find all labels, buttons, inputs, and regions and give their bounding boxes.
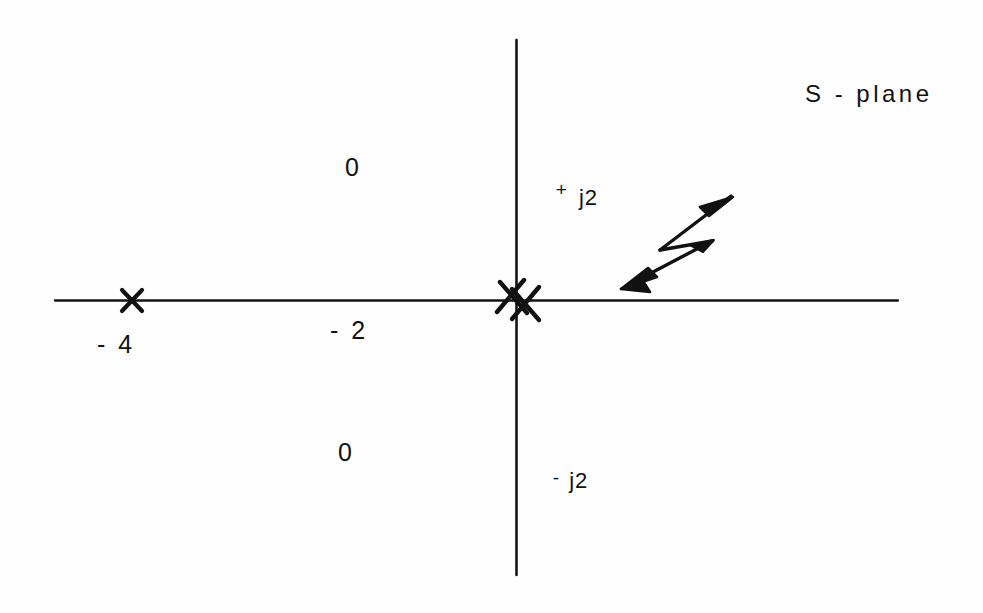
label-zero-lower-left: 0 <box>338 440 352 465</box>
label-zero-upper-left: 0 <box>345 155 359 180</box>
label-imag-minus-j2-value: j2 <box>569 468 588 493</box>
label-imag-plus-sign: + <box>556 179 567 200</box>
label-s-plane: S - plane <box>805 82 933 106</box>
label-imag-minus-j2: -j2 <box>521 440 588 517</box>
label-imag-plus-j2-value: j2 <box>579 185 598 210</box>
s-plane-figure: 0 0 - 4 - 2 +j2 -j2 S - plane <box>0 0 983 613</box>
label-real-minus-four: - 4 <box>97 332 135 357</box>
label-real-minus-two: - 2 <box>330 318 368 343</box>
double-headed-arrow <box>621 196 733 292</box>
label-imag-minus-sign: - <box>553 467 559 488</box>
label-imag-plus-j2: +j2 <box>524 155 598 234</box>
